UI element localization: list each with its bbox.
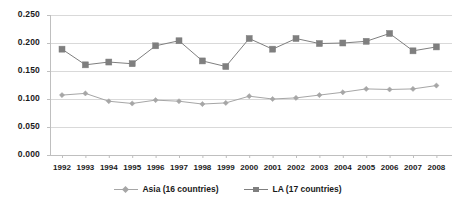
legend-marker-la	[244, 185, 268, 194]
data-point	[200, 101, 205, 106]
y-tick-label: 0.250	[2, 9, 40, 19]
data-point	[153, 43, 159, 49]
data-point	[363, 38, 369, 44]
y-tick-label: 0.150	[2, 65, 40, 75]
line-chart: 0.0000.0500.1000.1500.2000.250 199219931…	[0, 0, 456, 205]
data-point	[340, 40, 346, 46]
data-point	[247, 94, 252, 99]
chart-legend: Asia (16 countries) LA (17 countries)	[0, 184, 456, 194]
data-point	[83, 91, 88, 96]
data-point	[82, 62, 88, 68]
data-point	[270, 46, 276, 52]
data-point	[130, 101, 135, 106]
data-point	[410, 86, 415, 91]
y-tick-label: 0.000	[2, 149, 40, 159]
data-point	[59, 92, 64, 97]
data-point	[340, 90, 345, 95]
x-tick-label: 2008	[421, 163, 451, 172]
data-point	[106, 59, 112, 65]
data-point	[199, 58, 205, 64]
data-point	[387, 30, 393, 36]
legend-marker-asia	[114, 185, 138, 194]
data-point	[364, 86, 369, 91]
data-point	[293, 36, 299, 42]
data-point	[246, 36, 252, 42]
data-point	[317, 92, 322, 97]
legend-item-la: LA (17 countries)	[244, 184, 341, 194]
data-point	[59, 46, 65, 52]
data-point	[434, 83, 439, 88]
data-point	[316, 41, 322, 47]
y-tick-label: 0.050	[2, 121, 40, 131]
legend-label-asia: Asia (16 countries)	[142, 184, 218, 194]
data-point	[433, 44, 439, 50]
data-point	[176, 38, 182, 44]
chart-canvas	[0, 0, 456, 205]
data-point	[410, 48, 416, 54]
data-point	[153, 98, 158, 103]
data-point	[387, 87, 392, 92]
legend-item-asia: Asia (16 countries)	[114, 184, 218, 194]
data-point	[223, 100, 228, 105]
data-point	[270, 96, 275, 101]
y-tick-label: 0.100	[2, 93, 40, 103]
legend-label-la: LA (17 countries)	[272, 184, 341, 194]
y-tick-label: 0.200	[2, 37, 40, 47]
data-point	[223, 64, 229, 70]
data-point	[129, 61, 135, 67]
